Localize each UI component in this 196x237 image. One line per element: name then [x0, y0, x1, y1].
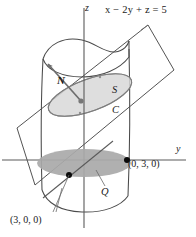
curve-C-tick-lower	[79, 112, 81, 114]
point-0-3-0-label: (0, 3, 0)	[128, 158, 160, 169]
curve-label: C	[112, 104, 119, 115]
figure-canvas	[0, 0, 196, 237]
point-3-0-0-label: (3, 0, 0)	[10, 214, 42, 225]
region-Q	[37, 149, 131, 177]
stokes-theorem-figure: x − 2y + z = 5 z y N S C Q (0, 3, 0) (3,…	[0, 0, 196, 237]
surface-label: S	[112, 84, 117, 95]
region-Q-ellipse	[37, 149, 131, 177]
z-axis-label: z	[85, 2, 89, 13]
region-label: Q	[101, 186, 109, 197]
curve-C-tick-upper	[99, 76, 101, 78]
y-axis-label: y	[176, 143, 180, 154]
normal-vector-base-point	[78, 98, 83, 103]
plane-equation-label: x − 2y + z = 5	[105, 4, 167, 15]
normal-vector-label: N	[57, 74, 65, 86]
